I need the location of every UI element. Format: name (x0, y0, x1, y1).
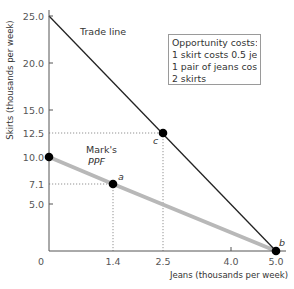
trade-line-label: Trade line (79, 26, 126, 37)
y-axis-title: Skirts (thousands per week) (5, 20, 15, 139)
y-tick-label: 7.1 (29, 179, 44, 190)
x-tick-label: 1.4 (105, 256, 120, 267)
point-ppf-intercept (45, 153, 54, 162)
y-tick-label: 10.0 (23, 152, 44, 163)
point-a (109, 180, 118, 189)
x-tick-label: 0 (38, 256, 44, 267)
point-b-label: b (279, 237, 285, 248)
y-tick-label: 5.0 (29, 199, 44, 210)
x-tick-label: 2.5 (155, 256, 170, 267)
point-c-label: c (153, 135, 159, 146)
x-axis-title: Jeans (thousands per week) (169, 270, 288, 280)
x-tick-label: 4.0 (223, 256, 238, 267)
opportunity-cost-line: 1 skirt costs 0.5 jeans (172, 49, 257, 61)
opportunity-cost-line: 2 skirts (172, 73, 257, 85)
y-tick-label: 15.0 (23, 105, 44, 116)
point-a-label: a (118, 171, 124, 182)
point-c (159, 129, 168, 138)
y-tick-label: 20.0 (23, 58, 44, 69)
opportunity-cost-box: Opportunity costs: 1 skirt costs 0.5 jea… (168, 34, 261, 85)
x-tick-label: 5.0 (268, 256, 283, 267)
y-tick-label: 25.0 (23, 11, 44, 22)
opportunity-cost-heading: Opportunity costs: (172, 37, 257, 49)
ppf-label-line1: Mark's (86, 144, 117, 155)
opportunity-cost-line: 1 pair of jeans costs (172, 61, 257, 73)
ppf-line (49, 157, 276, 251)
y-tick-label: 12.5 (23, 128, 44, 139)
ppf-label-line2: PPF (88, 156, 105, 167)
